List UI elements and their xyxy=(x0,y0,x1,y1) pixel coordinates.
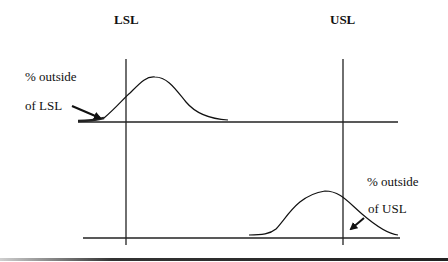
top-distribution-curve xyxy=(78,77,228,121)
bottom-border xyxy=(0,258,448,261)
bottom-distribution-curve xyxy=(249,191,398,235)
lsl-arrow-icon xyxy=(72,106,100,118)
usl-arrow-icon xyxy=(351,218,364,229)
spec-limit-diagram xyxy=(0,0,448,262)
lsl-tail-region xyxy=(78,118,104,121)
